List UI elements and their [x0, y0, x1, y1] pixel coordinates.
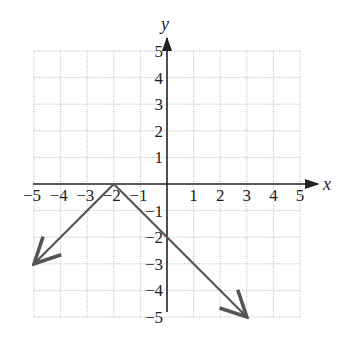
x-tick-label: 2 [216, 186, 225, 205]
x-tick-label: −4 [50, 186, 69, 205]
y-axis-label: y [159, 14, 169, 34]
x-tick-label: 4 [269, 186, 278, 205]
y-tick-label: 5 [155, 42, 164, 61]
right-ray [114, 184, 247, 317]
x-tick-label: 3 [243, 186, 252, 205]
y-tick-label: −4 [145, 281, 164, 300]
y-tick-label: −5 [145, 308, 163, 327]
y-tick-label: −3 [145, 255, 163, 274]
y-tick-label: 1 [155, 148, 164, 167]
left-ray [34, 184, 114, 264]
x-tick-label: −5 [23, 186, 41, 205]
y-tick-label: 3 [155, 95, 164, 114]
x-tick-labels: −5−4−3−2−112345 [23, 186, 304, 205]
x-tick-label: −3 [76, 186, 94, 205]
graph: x y −5−4−3−2−112345 54321−1−2−3−4−5 [0, 0, 350, 341]
x-axis-label: x [322, 174, 331, 194]
y-tick-label: 2 [155, 122, 164, 141]
y-tick-label: 4 [155, 69, 164, 88]
x-tick-label: 5 [296, 186, 305, 205]
x-tick-label: 1 [189, 186, 198, 205]
